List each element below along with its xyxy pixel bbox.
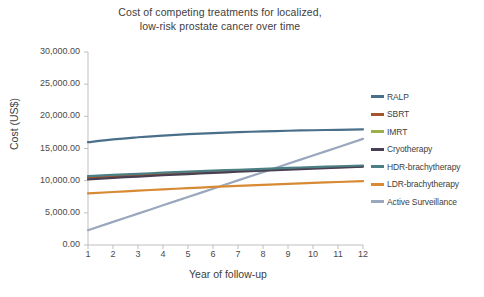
x-axis-tick-label: 6	[203, 249, 223, 259]
y-axis-tick-label: 10,000.00	[14, 175, 80, 185]
y-axis-tick-label: 25,000.00	[14, 78, 80, 88]
legend-item-label: LDR-brachytherapy	[387, 179, 459, 189]
x-axis-title: Year of follow-up	[88, 268, 368, 280]
x-axis-tick-label: 8	[253, 249, 273, 259]
legend-item[interactable]: RALP	[371, 88, 484, 106]
x-axis-tick-label: 11	[328, 249, 348, 259]
y-axis-tick-labels: 0.005,000.0010,000.0015,000.0020,000.002…	[10, 0, 80, 297]
legend-item[interactable]: Active Surveillance	[371, 193, 484, 211]
axis-layer	[84, 52, 363, 249]
legend-swatch-icon	[371, 130, 384, 133]
legend-swatch-icon	[371, 183, 384, 186]
legend-item-label: Cryotherapy	[387, 144, 432, 154]
series-line	[88, 129, 363, 142]
series-line	[88, 165, 363, 176]
chart-container: Cost of competing treatments for localiz…	[0, 0, 484, 297]
y-axis-tick-label: 0.00	[14, 239, 80, 249]
legend-item-label: RALP	[387, 92, 409, 102]
x-axis-tick-label: 9	[278, 249, 298, 259]
legend-swatch-icon	[371, 200, 384, 203]
legend-item[interactable]: HDR-brachytherapy	[371, 158, 484, 176]
legend-item-label: IMRT	[387, 127, 407, 137]
legend-item-label: SBRT	[387, 109, 409, 119]
y-axis-title: Cost (US$)	[8, 84, 20, 164]
y-axis-tick-label: 5,000.00	[14, 207, 80, 217]
y-axis-tick-label: 30,000.00	[14, 46, 80, 56]
legend-swatch-icon	[371, 95, 384, 98]
legend-item[interactable]: Cryotherapy	[371, 141, 484, 159]
x-axis-tick-label: 2	[103, 249, 123, 259]
legend-swatch-icon	[371, 113, 384, 116]
y-axis-tick-label: 15,000.00	[14, 143, 80, 153]
legend-item[interactable]: SBRT	[371, 106, 484, 124]
x-axis-tick-label: 12	[353, 249, 373, 259]
legend-swatch-icon	[371, 165, 384, 168]
legend-item-label: HDR-brachytherapy	[387, 162, 460, 172]
series-line	[88, 167, 363, 180]
series-line	[88, 181, 363, 193]
legend-item[interactable]: LDR-brachytherapy	[371, 176, 484, 194]
x-axis-tick-label: 5	[178, 249, 198, 259]
x-axis-tick-label: 4	[153, 249, 173, 259]
legend-item[interactable]: IMRT	[371, 123, 484, 141]
x-axis-tick-label: 10	[303, 249, 323, 259]
series-line	[88, 139, 363, 230]
chart-legend: RALPSBRTIMRTCryotherapyHDR-brachytherapy…	[371, 88, 484, 211]
series-layer	[88, 129, 363, 230]
x-axis-tick-label: 7	[228, 249, 248, 259]
legend-item-label: Active Surveillance	[387, 197, 457, 207]
x-axis-tick-label: 3	[128, 249, 148, 259]
y-axis-tick-label: 20,000.00	[14, 110, 80, 120]
legend-swatch-icon	[371, 148, 384, 151]
x-axis-tick-label: 1	[78, 249, 98, 259]
